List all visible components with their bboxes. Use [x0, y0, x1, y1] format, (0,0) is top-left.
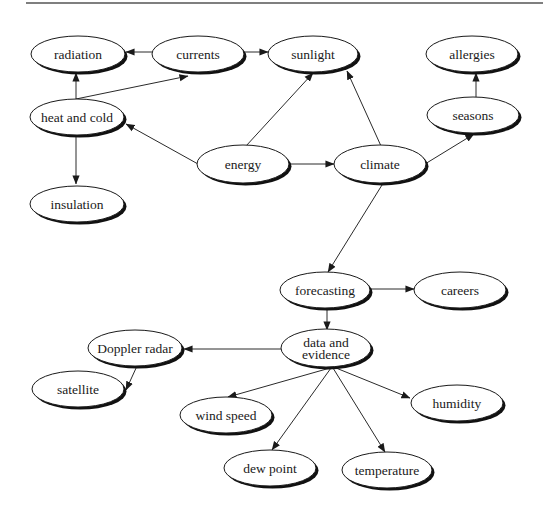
node-temperature: temperature: [342, 452, 435, 491]
node-wind-speed: wind speed: [180, 397, 275, 436]
node-label: temperature: [355, 463, 419, 478]
node-label: climate: [360, 157, 400, 172]
node-heat-and-cold: heat and cold: [30, 99, 127, 138]
node-label: dew point: [243, 461, 297, 476]
edge-data-and-evidence-to-dew-point: [272, 368, 331, 450]
node-label: seasons: [452, 108, 493, 123]
edge-data-and-evidence-to-humidity: [336, 368, 410, 398]
node-allergies: allergies: [426, 36, 521, 75]
edge-climate-to-seasons: [425, 134, 474, 164]
node-label: allergies: [449, 47, 494, 62]
node-label: insulation: [50, 197, 103, 212]
node-radiation: radiation: [31, 36, 128, 75]
node-label: currents: [176, 47, 219, 62]
node-currents: currents: [152, 36, 247, 75]
node-energy: energy: [197, 145, 292, 186]
edges-layer: [76, 52, 476, 452]
node-sunlight: sunlight: [268, 36, 361, 75]
edge-climate-to-forecasting: [328, 185, 382, 272]
node-label: wind speed: [195, 408, 256, 423]
node-label: radiation: [54, 47, 102, 62]
node-label: sunlight: [291, 47, 335, 62]
edge-energy-to-heat-and-cold: [126, 124, 198, 164]
nodes-layer: radiationcurrentssunlightallergiesheat a…: [30, 36, 522, 491]
concept-map: radiationcurrentssunlightallergiesheat a…: [0, 0, 543, 517]
node-label: satellite: [57, 382, 99, 397]
node-forecasting: forecasting: [280, 272, 373, 311]
node-humidity: humidity: [411, 385, 506, 424]
node-label: forecasting: [295, 283, 355, 298]
edge-heat-and-cold-to-currents: [76, 76, 188, 99]
edge-climate-to-sunlight: [347, 71, 381, 146]
node-dew-point: dew point: [224, 450, 319, 489]
node-insulation: insulation: [30, 186, 127, 225]
node-label: Doppler radar: [97, 341, 173, 356]
edge-data-and-evidence-to-temperature: [333, 368, 385, 452]
edge-doppler-radar-to-satellite: [126, 366, 137, 390]
node-label: humidity: [433, 396, 482, 411]
node-label: energy: [225, 157, 262, 172]
node-label: evidence: [302, 347, 350, 362]
node-satellite: satellite: [32, 371, 127, 410]
node-label: heat and cold: [41, 110, 113, 125]
node-label: careers: [441, 283, 479, 298]
edge-data-and-evidence-to-wind-speed: [228, 368, 330, 397]
node-climate: climate: [334, 145, 429, 186]
edge-energy-to-sunlight: [246, 73, 313, 146]
node-doppler-radar: Doppler radar: [88, 330, 185, 369]
node-seasons: seasons: [427, 97, 522, 136]
node-careers: careers: [414, 272, 509, 311]
node-data-and-evidence: data andevidence: [281, 329, 374, 370]
